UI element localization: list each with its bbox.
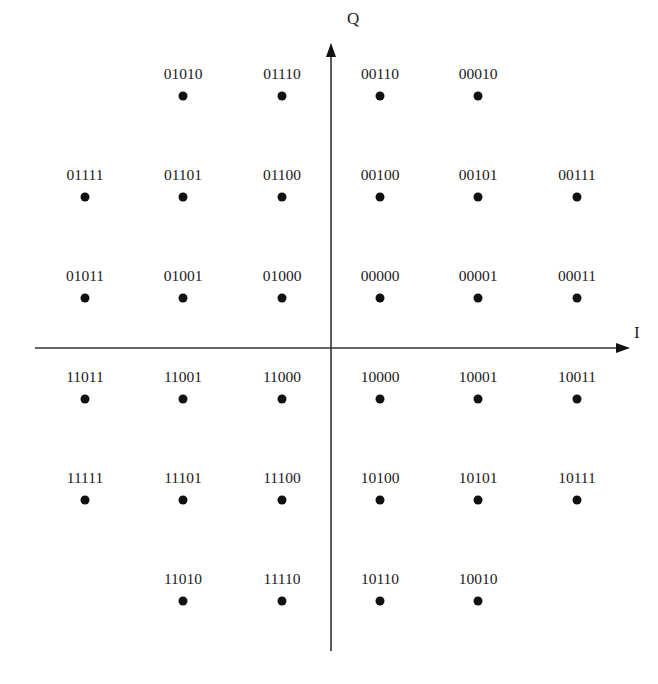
point-dot: [376, 597, 385, 606]
point-dot: [81, 395, 90, 404]
constellation-point: 01001: [164, 267, 203, 303]
point-label: 10100: [361, 469, 400, 486]
point-dot: [573, 496, 582, 505]
q-axis-label: Q: [347, 9, 359, 28]
point-label: 01101: [164, 166, 202, 183]
point-label: 01110: [263, 65, 301, 82]
point-dot: [376, 294, 385, 303]
point-label: 00010: [459, 65, 498, 82]
point-dot: [81, 496, 90, 505]
constellation-point: 01101: [164, 166, 202, 202]
constellation-point: 01100: [263, 166, 301, 202]
constellation-point: 11001: [164, 368, 202, 404]
point-label: 11111: [67, 469, 103, 486]
point-label: 10101: [459, 469, 498, 486]
constellation-point: 00111: [558, 166, 596, 202]
constellation-point: 00101: [459, 166, 498, 202]
constellation-point: 11011: [66, 368, 104, 404]
point-dot: [179, 395, 188, 404]
point-label: 11010: [164, 570, 202, 587]
point-dot: [474, 294, 483, 303]
point-dot: [474, 92, 483, 101]
constellation-point: 11110: [263, 570, 300, 606]
point-dot: [179, 597, 188, 606]
constellation-point: 00110: [361, 65, 399, 101]
point-dot: [278, 597, 287, 606]
point-label: 00001: [459, 267, 498, 284]
constellation-point: 00000: [361, 267, 400, 303]
point-label: 11001: [164, 368, 202, 385]
constellation-diagram: I Q 010100111000110000100111101101011000…: [0, 0, 658, 684]
constellation-point: 10110: [361, 570, 399, 606]
point-dot: [573, 193, 582, 202]
point-label: 00111: [558, 166, 596, 183]
point-label: 01000: [263, 267, 302, 284]
point-label: 10110: [361, 570, 399, 587]
point-label: 10000: [361, 368, 400, 385]
constellation-point: 10111: [558, 469, 596, 505]
i-axis-label: I: [634, 323, 640, 342]
constellation-point: 01000: [263, 267, 302, 303]
point-label: 11101: [164, 469, 202, 486]
constellation-point: 01011: [66, 267, 104, 303]
constellation-point: 11100: [263, 469, 301, 505]
point-dot: [474, 597, 483, 606]
point-dot: [474, 193, 483, 202]
point-dot: [179, 92, 188, 101]
point-label: 00000: [361, 267, 400, 284]
constellation-point: 10101: [459, 469, 498, 505]
point-dot: [376, 496, 385, 505]
point-label: 00101: [459, 166, 498, 183]
point-dot: [278, 193, 287, 202]
constellation-point: 00010: [459, 65, 498, 101]
point-label: 11100: [263, 469, 301, 486]
point-label: 00100: [361, 166, 400, 183]
constellation-point: 00011: [558, 267, 596, 303]
point-label: 00110: [361, 65, 399, 82]
constellation-point: 00100: [361, 166, 400, 202]
constellation-point: 11101: [164, 469, 202, 505]
point-dot: [81, 193, 90, 202]
point-dot: [474, 496, 483, 505]
point-label: 01001: [164, 267, 203, 284]
point-label: 01010: [164, 65, 203, 82]
point-dot: [81, 294, 90, 303]
point-label: 01111: [66, 166, 103, 183]
point-label: 01011: [66, 267, 104, 284]
point-dot: [278, 496, 287, 505]
point-dot: [474, 395, 483, 404]
point-label: 11110: [263, 570, 300, 587]
point-dot: [278, 92, 287, 101]
constellation-point: 10010: [459, 570, 498, 606]
point-dot: [278, 395, 287, 404]
constellation-point: 10011: [558, 368, 596, 404]
constellation-point: 11111: [67, 469, 103, 505]
point-dot: [573, 395, 582, 404]
point-dot: [573, 294, 582, 303]
point-label: 00011: [558, 267, 596, 284]
point-dot: [179, 294, 188, 303]
point-label: 11000: [263, 368, 301, 385]
constellation-point: 01110: [263, 65, 301, 101]
point-dot: [278, 294, 287, 303]
constellation-point: 10100: [361, 469, 400, 505]
point-dot: [376, 193, 385, 202]
constellation-point: 11010: [164, 570, 202, 606]
point-dot: [376, 92, 385, 101]
point-label: 10001: [459, 368, 498, 385]
point-dot: [376, 395, 385, 404]
constellation-point: 01010: [164, 65, 203, 101]
point-dot: [179, 496, 188, 505]
point-dot: [179, 193, 188, 202]
point-label: 10011: [558, 368, 596, 385]
constellation-point: 10000: [361, 368, 400, 404]
point-label: 10111: [558, 469, 596, 486]
point-label: 11011: [66, 368, 104, 385]
constellation-point: 10001: [459, 368, 498, 404]
point-label: 01100: [263, 166, 301, 183]
constellation-point: 00001: [459, 267, 498, 303]
constellation-point: 01111: [66, 166, 103, 202]
constellation-point: 11000: [263, 368, 301, 404]
point-label: 10010: [459, 570, 498, 587]
